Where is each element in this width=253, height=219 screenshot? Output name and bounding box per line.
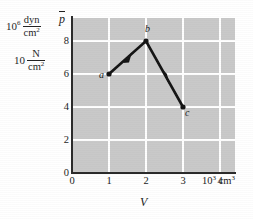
pv-diagram-figure: 106 dyn cm2 10 N cm2 p xyxy=(0,0,253,219)
y-tick-2: 2 xyxy=(53,135,69,146)
y-unit-dyn-denominator: cm2 xyxy=(23,27,41,39)
data-point-a xyxy=(106,71,111,76)
x-axis-label: V xyxy=(140,196,147,208)
point-label-b: b xyxy=(145,24,150,34)
x-axis-unit: 103 cm3 xyxy=(202,176,235,187)
process-polyline xyxy=(109,41,183,107)
y-unit-newton-coefficient: 10 xyxy=(14,55,25,66)
data-point-b xyxy=(143,38,148,43)
x-tick-2: 2 xyxy=(139,176,153,187)
y-unit-dyn-numerator: dyn xyxy=(23,14,41,26)
data-series-path xyxy=(72,18,235,173)
x-tick-3: 3 xyxy=(176,176,190,187)
plot-area: a b c xyxy=(72,18,235,173)
y-unit-dyn-exponent: 6 xyxy=(17,19,21,27)
y-axis-line xyxy=(71,16,73,174)
y-unit-dyn-fraction: dyn cm2 xyxy=(23,14,41,39)
y-unit-dyn-coefficient: 106 xyxy=(6,21,21,32)
x-axis-line xyxy=(71,172,236,174)
y-unit-newton-fraction: N cm2 xyxy=(27,48,45,73)
y-axis-unit-dyn: 106 dyn cm2 xyxy=(6,14,41,39)
point-label-a: a xyxy=(99,70,104,80)
x-tick-0: 0 xyxy=(65,176,79,187)
x-tick-1: 1 xyxy=(102,176,116,187)
y-unit-newton-denominator: cm2 xyxy=(27,61,45,73)
y-unit-newton-numerator: N xyxy=(31,48,41,60)
y-tick-8: 8 xyxy=(53,36,69,47)
y-tick-4: 4 xyxy=(53,102,69,113)
point-label-c: c xyxy=(185,108,189,118)
y-tick-6: 6 xyxy=(53,69,69,80)
y-axis-unit-newton: 10 N cm2 xyxy=(14,48,45,73)
